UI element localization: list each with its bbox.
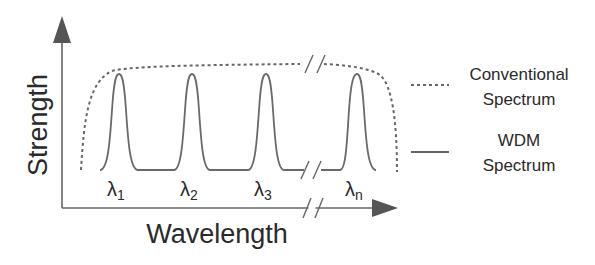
legend-conventional-line2: Spectrum bbox=[483, 90, 556, 109]
x-axis-title: Wavelength bbox=[146, 219, 288, 249]
wdm-spectrum-curve bbox=[100, 74, 376, 170]
legend: Conventional Spectrum WDM Spectrum bbox=[411, 65, 569, 175]
y-axis-title: Strength bbox=[23, 74, 53, 176]
y-axis bbox=[53, 16, 71, 208]
legend-conventional-line1: Conventional bbox=[469, 65, 568, 84]
curve-break-mark bbox=[305, 55, 325, 73]
peak-labels: λ1 λ2 λ3 λn bbox=[107, 178, 363, 203]
x-axis bbox=[62, 198, 398, 218]
spectrum-diagram: λ1 λ2 λ3 λn Wavelength Strength Conventi… bbox=[0, 0, 595, 265]
y-axis-arrow-icon bbox=[53, 16, 71, 43]
peak-label-3: λ3 bbox=[254, 178, 272, 203]
x-axis-arrow-icon bbox=[372, 199, 398, 217]
legend-wdm-line2: Spectrum bbox=[483, 156, 556, 175]
peak-label-n: λn bbox=[345, 178, 363, 203]
legend-wdm-line1: WDM bbox=[498, 131, 540, 150]
peak-label-2: λ2 bbox=[180, 178, 198, 203]
peak-label-1: λ1 bbox=[107, 178, 125, 203]
conventional-spectrum-curve bbox=[81, 64, 397, 172]
